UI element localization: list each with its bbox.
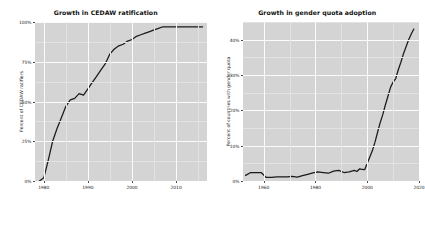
y-tick-mark [33,62,35,63]
gridline-minor-vertical [393,22,394,181]
y-tick-mark [241,75,243,76]
gridline-major-vertical [132,22,133,181]
x-tick-label: 1980 [310,185,321,190]
y-tick-mark [33,22,35,23]
x-tick-mark [315,181,316,183]
gridline-major-vertical [44,22,45,181]
y-tick-mark [241,110,243,111]
gridline-minor-horizontal [35,161,207,162]
gridline-major-vertical [315,22,316,181]
gridline-major-horizontal [35,62,207,63]
gridline-major-horizontal [35,22,207,23]
x-tick-label: 1960 [258,185,269,190]
gridline-major-vertical [176,22,177,181]
x-tick-mark [132,181,133,183]
x-tick-label: 1990 [82,185,93,190]
x-tick-label: 2000 [362,185,373,190]
chart-title-quota: Growth in gender quota adoption [212,9,424,16]
gridline-minor-vertical [198,22,199,181]
y-tick-label: 50% [22,99,32,104]
gridline-major-vertical [264,22,265,181]
gridline-minor-vertical [110,22,111,181]
x-tick-mark [44,181,45,183]
y-tick-mark [33,102,35,103]
y-tick-label: 40% [230,37,240,42]
y-tick-label: 25% [22,139,32,144]
x-tick-label: 1980 [38,185,49,190]
x-tick-label: 2020 [413,185,424,190]
data-line [39,27,202,181]
plot-area-cedaw [35,22,207,181]
chart-title-cedaw: Growth in CEDAW ratification [0,9,212,16]
y-tick-label: 75% [22,59,32,64]
plot-area-quota [243,22,419,181]
y-tick-mark [33,141,35,142]
y-tick-mark [241,146,243,147]
data-line [246,29,414,177]
y-axis-label-quota: Percent of countries with gender quota [226,56,231,146]
gridline-major-vertical [367,22,368,181]
gridline-minor-vertical [341,22,342,181]
x-tick-mark [88,181,89,183]
gridline-major-horizontal [35,141,207,142]
x-tick-mark [176,181,177,183]
y-tick-label: 0% [233,179,240,184]
y-tick-label: 10% [230,143,240,148]
y-tick-mark [241,181,243,182]
y-tick-mark [241,40,243,41]
gridline-major-horizontal [35,102,207,103]
chart-cedaw-ratification: Growth in CEDAW ratification Percent of … [0,0,212,225]
x-tick-mark [419,181,420,183]
gridline-minor-vertical [66,22,67,181]
gridline-minor-vertical [290,22,291,181]
gridline-minor-horizontal [35,82,207,83]
y-tick-label: 30% [230,73,240,78]
gridline-minor-vertical [154,22,155,181]
y-tick-label: 20% [230,108,240,113]
x-tick-mark [367,181,368,183]
x-tick-mark [264,181,265,183]
y-tick-label: 0% [25,179,32,184]
gridline-major-vertical [88,22,89,181]
gridline-minor-horizontal [35,42,207,43]
gridline-minor-horizontal [35,121,207,122]
y-tick-label: 100% [19,20,32,25]
y-tick-mark [33,181,35,182]
chart-gender-quota: Growth in gender quota adoption Percent … [212,0,424,225]
x-tick-label: 2000 [126,185,137,190]
x-tick-label: 2010 [171,185,182,190]
